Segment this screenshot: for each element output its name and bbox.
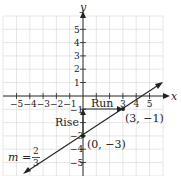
coordinate-graph: y x −5 −4 −3 −2 −1 3 4 5 5 4 3 2 1 −1 −3… [0,0,181,176]
y-tick-label: −5 [70,158,84,168]
y-tick-label: 4 [74,38,80,48]
y-tick-label: 1 [74,78,80,88]
point-0-neg3 [81,134,85,138]
point-3-neg1 [121,107,125,111]
x-tick-label: 5 [147,99,153,109]
slope-denominator: 3 [33,158,39,168]
x-tick-label: −4 [24,99,38,109]
x-tick-label: −3 [37,99,51,109]
y-tick-label: 5 [74,25,80,35]
y-tick-label: 3 [74,51,80,61]
y-tick-label: 2 [74,64,80,74]
y-axis-label: y [79,1,87,14]
run-label: Run [91,97,113,110]
slope-numerator: 2 [33,146,39,156]
line-arrow-top-icon [155,82,163,89]
x-tick-label: −5 [10,99,24,109]
y-tick-label: −4 [70,144,84,154]
x-tick-label: −2 [50,99,63,109]
point-label-0-neg3: (0, −3) [87,138,126,151]
point-label-3-neg1: (3, −1) [125,112,164,125]
slope-label: m = [8,151,31,164]
rise-label: Rise [55,116,79,129]
x-axis-arrow-icon [163,93,170,99]
x-axis-label: x [171,90,178,103]
